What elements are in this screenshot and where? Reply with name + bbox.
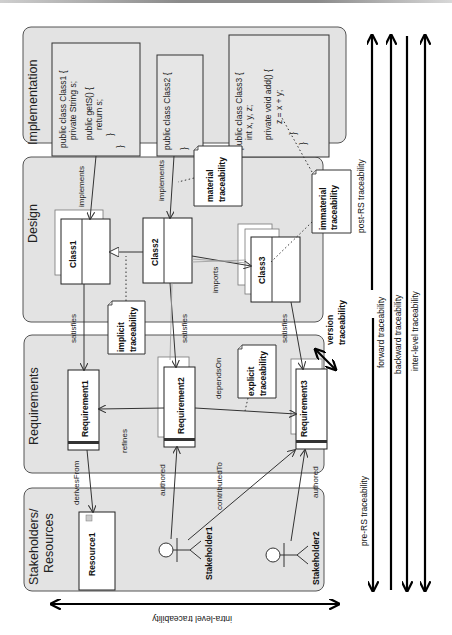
svg-text:}: } (115, 145, 125, 148)
code-class1: public class Class1 { private String s; … (52, 43, 140, 156)
svg-text:public class Class1 {: public class Class1 { (58, 70, 68, 148)
svg-text:Stakeholder1: Stakeholder1 (204, 526, 214, 580)
axis-forward: forward traceability (376, 36, 391, 590)
design-class2: Class2 (143, 218, 192, 283)
svg-text:material: material (205, 169, 215, 202)
resource1: Resource1 (79, 512, 115, 590)
svg-text:traceability: traceability (329, 185, 339, 230)
svg-text:satisfies: satisfies (280, 314, 289, 343)
code-class3: public class Class3 { int x, y, z; priva… (229, 35, 329, 157)
svg-text:immaterial: immaterial (318, 187, 328, 230)
axis-intra-level: intra-level traceability (52, 604, 338, 624)
svg-text:Class2: Class2 (150, 238, 160, 266)
svg-text:explicit: explicit (246, 367, 256, 396)
axis-backward: backward traceability (393, 36, 407, 590)
svg-text:satisfies: satisfies (69, 314, 78, 343)
axis-inter-level: inter-level traceability (410, 36, 425, 590)
requirement3: Requirement3 (291, 359, 327, 449)
svg-text:Requirement2: Requirement2 (176, 377, 186, 434)
requirement2: Requirement2 (158, 357, 195, 447)
label-backward-traceability: backward traceability (393, 294, 403, 374)
svg-text:authored: authored (158, 464, 167, 496)
svg-text:Stakeholder2: Stakeholder2 (311, 531, 321, 585)
panel-title-stakeholders-1: Stakeholders/ (27, 508, 41, 585)
svg-text:contributedTo: contributedTo (215, 461, 224, 510)
svg-text:traceability: traceability (217, 157, 227, 202)
svg-text:public getS() {: public getS() { (84, 87, 94, 140)
svg-text:int x, y, z;: int x, y, z; (244, 105, 254, 140)
label-pre-rs-traceability: pre-RS traceability (359, 475, 369, 546)
svg-text:imports: imports (211, 267, 220, 293)
svg-text:private String s;: private String s; (68, 81, 78, 140)
svg-text:Requirement3: Requirement3 (299, 380, 309, 437)
panel-title-requirements: Requirements (27, 367, 41, 445)
panel-title-stakeholders-2: Resources (42, 513, 56, 573)
svg-text:implements: implements (157, 160, 166, 201)
svg-text:satisfies: satisfies (180, 314, 189, 343)
traceability-figure: Implementation Design Requirements Stake… (0, 0, 452, 635)
svg-text:implements: implements (77, 166, 86, 207)
svg-text:authored: authored (311, 466, 320, 498)
svg-text:public class Class3 {: public class Class3 { (234, 72, 244, 150)
code-class2: public class Class2 { } (157, 55, 203, 156)
svg-text:traceability: traceability (337, 300, 347, 345)
svg-text:version: version (325, 315, 335, 345)
requirement1: Requirement1 (68, 370, 99, 450)
svg-text:return s;: return s; (94, 99, 104, 130)
svg-text:traceability: traceability (258, 351, 268, 396)
panel-title-implementation: Implementation (26, 59, 40, 145)
svg-text:Class3: Class3 (257, 256, 267, 284)
axis-post-pre-rs: post-RS traceability pre-RS traceability (356, 36, 373, 590)
panel-stakeholders: Stakeholders/ Resources (24, 488, 324, 591)
label-post-rs-traceability: post-RS traceability (356, 159, 366, 233)
svg-text:private void add() {: private void add() { (263, 69, 273, 140)
svg-text:Class1: Class1 (68, 240, 78, 268)
label-inter-level-traceability: inter-level traceability (410, 290, 420, 371)
panel-title-design: Design (26, 204, 40, 243)
svg-text:Resource1: Resource1 (87, 532, 97, 576)
svg-text:}: } (105, 133, 115, 136)
svg-text:implicit: implicit (116, 322, 126, 352)
label-intra-level-traceability: intra-level traceability (151, 614, 232, 624)
svg-text:dependsOn: dependsOn (214, 358, 223, 399)
svg-text:public class Class2 {: public class Class2 { (162, 72, 172, 150)
svg-text:Requirement1: Requirement1 (80, 380, 90, 437)
svg-text:derivesFrom: derivesFrom (72, 460, 81, 505)
svg-text:refines: refines (120, 429, 129, 453)
svg-text:}: } (298, 142, 308, 145)
svg-text:traceability: traceability (128, 307, 138, 352)
label-forward-traceability: forward traceability (376, 296, 386, 368)
design-class1: Class1 (55, 210, 110, 284)
svg-text:}: } (179, 147, 189, 150)
